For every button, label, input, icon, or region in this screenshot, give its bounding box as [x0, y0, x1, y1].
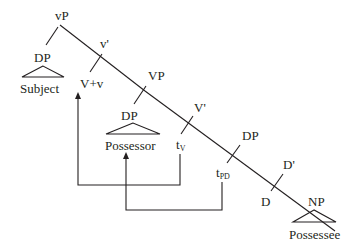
trace-tPD: tPD [216, 165, 230, 181]
label-subject: Subject [20, 81, 59, 96]
node-D: D [261, 194, 270, 209]
node-vP: vP [55, 8, 69, 23]
node-V-plus-v: V+v [80, 76, 104, 91]
syntax-tree: vP DP Subject v' V+v VP DP Possessor V' … [0, 0, 356, 250]
node-VP: VP [148, 68, 165, 83]
node-v-bar: v' [100, 36, 109, 51]
node-DP-possessee-phrase: DP [242, 128, 259, 143]
branch-possessor [134, 86, 146, 104]
trace-tV: tV [176, 137, 186, 153]
node-DP-possessor: DP [121, 108, 138, 123]
branch-subject [46, 27, 58, 45]
movement-arrow-tPD [126, 156, 222, 210]
node-V-bar: V' [194, 100, 206, 115]
node-D-bar: D' [283, 157, 295, 172]
arrowhead-possessor [123, 152, 129, 159]
label-possessee: Possessee [289, 227, 341, 242]
label-possessor: Possessor [105, 138, 156, 153]
branch-V-plus-v [90, 54, 102, 72]
branch-tPD [227, 145, 240, 163]
arrowhead-V-plus-v [75, 92, 81, 99]
node-NP: NP [308, 194, 325, 209]
node-DP-subject: DP [34, 50, 51, 65]
triangle-possessor [106, 123, 160, 134]
triangle-subject [22, 66, 64, 77]
